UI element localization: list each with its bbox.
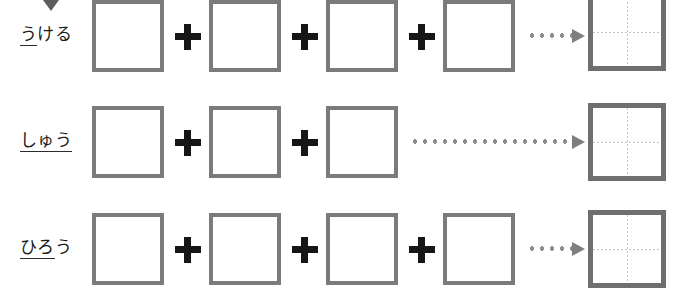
- component-box[interactable]: [326, 0, 398, 72]
- plus-icon: [292, 24, 318, 50]
- grid-guide-horizontal: [593, 142, 661, 143]
- plus-icon: [175, 130, 201, 156]
- grid-guide-horizontal: [593, 249, 661, 250]
- worksheet-row: しゅう: [0, 103, 686, 195]
- dotted-arrow-icon: [527, 29, 585, 43]
- component-box[interactable]: [209, 0, 281, 72]
- component-box[interactable]: [443, 0, 515, 72]
- dotted-arrow-icon: [527, 242, 585, 256]
- plus-icon: [292, 237, 318, 263]
- result-kanji-grid[interactable]: [588, 103, 666, 181]
- arrow-dots: [527, 246, 572, 251]
- arrow-head: [572, 29, 585, 43]
- reading-underlined-part: ひろ: [20, 237, 55, 259]
- arrow-head: [572, 135, 585, 149]
- reading-label: うける: [10, 23, 82, 45]
- component-box[interactable]: [92, 106, 164, 178]
- worksheet-row: うける: [0, 0, 686, 90]
- reading-underlined-part: う: [20, 24, 38, 46]
- worksheet-row: ひろう: [0, 210, 686, 300]
- component-box[interactable]: [326, 106, 398, 178]
- reading-underlined-part: しゅう: [20, 130, 73, 152]
- arrow-dots: [527, 33, 572, 38]
- result-kanji-grid[interactable]: [588, 0, 666, 71]
- dotted-arrow-icon: [410, 135, 585, 149]
- grid-guide-horizontal: [593, 32, 661, 33]
- reading-label: ひろう: [10, 236, 82, 258]
- component-box[interactable]: [92, 0, 164, 72]
- reading-label: しゅう: [10, 129, 82, 151]
- plus-icon: [292, 130, 318, 156]
- result-kanji-grid[interactable]: [588, 210, 666, 288]
- plus-icon: [175, 237, 201, 263]
- component-box[interactable]: [209, 213, 281, 285]
- component-box[interactable]: [209, 106, 281, 178]
- arrow-head: [572, 242, 585, 256]
- plus-icon: [175, 24, 201, 50]
- grid-guide-vertical: [627, 0, 628, 66]
- kanji-composition-worksheet: うける しゅう: [0, 0, 686, 300]
- plus-icon: [409, 237, 435, 263]
- reading-trailing-part: う: [55, 237, 73, 257]
- arrow-dots: [410, 139, 572, 144]
- plus-icon: [409, 24, 435, 50]
- reading-trailing-part: ける: [37, 24, 72, 44]
- component-box[interactable]: [326, 213, 398, 285]
- component-box[interactable]: [443, 213, 515, 285]
- component-box[interactable]: [92, 213, 164, 285]
